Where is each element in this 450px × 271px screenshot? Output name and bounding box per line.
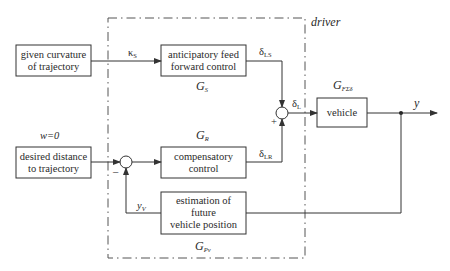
summer1-minus-sign: – (113, 166, 118, 178)
delta-ls-label: δLS (259, 46, 272, 61)
tf-gpv-label: GPv (195, 240, 211, 256)
tf-gvehicle-sub: FΣδ (342, 85, 353, 92)
w-label: w=0 (40, 130, 59, 142)
tf-gs-sub: S (205, 86, 208, 93)
kappa-sub: S (133, 52, 137, 59)
delta-ls-sub: LS (264, 51, 272, 58)
output-y-label: y (414, 97, 419, 109)
compensatory-text: compensatory control (161, 147, 246, 178)
driver-label: driver (311, 16, 340, 28)
delta-l-sub: L (297, 103, 301, 110)
anticipatory-line-1: anticipatory feed (168, 49, 239, 61)
summer2-plus-sign: + (271, 116, 277, 128)
tf-gvehicle-label: GFΣδ (333, 79, 353, 95)
vehicle-line-1: vehicle (327, 107, 357, 119)
desired-distance-line-1: desired distance (20, 151, 87, 163)
delta-ls-line (246, 61, 282, 107)
given-curvature-line-1: given curvature (21, 49, 87, 61)
tf-gpv-sub: Pv (204, 246, 211, 253)
yv-label: yV (137, 200, 146, 215)
given-curvature-line-2: of trajectory (28, 61, 80, 73)
summing-junction-1 (120, 156, 132, 168)
estimation-text: estimation of future vehicle position (161, 192, 246, 234)
estimation-line-3: vehicle position (170, 219, 237, 231)
delta-lr-label: δLR (259, 148, 272, 163)
delta-l-label: δL (292, 98, 301, 113)
tf-gr-main: G (196, 128, 205, 142)
feedback-y-line (246, 113, 401, 213)
tf-gvehicle-main: G (333, 78, 342, 92)
desired-distance-text: desired distance to trajectory (16, 147, 91, 178)
estimation-line-1: estimation of (176, 195, 231, 207)
vehicle-text: vehicle (317, 98, 367, 127)
yv-sub: V (142, 205, 146, 212)
anticipatory-text: anticipatory feed forward control (161, 45, 246, 76)
tf-gs-main: G (196, 79, 205, 93)
tf-gpv-main: G (195, 239, 204, 253)
desired-distance-line-2: to trajectory (28, 163, 79, 175)
tf-gr-sub: R (205, 135, 209, 142)
tf-gr-label: GR (196, 129, 209, 145)
summing-junction-2 (276, 107, 288, 119)
compensatory-line-1: compensatory (174, 151, 233, 163)
delta-lr-sub: LR (264, 153, 272, 160)
anticipatory-line-2: forward control (171, 61, 237, 73)
given-curvature-text: given curvature of trajectory (16, 45, 91, 76)
kappa-label: κS (128, 47, 137, 62)
estimation-line-2: future (191, 207, 216, 219)
tf-gs-label: GS (196, 80, 208, 96)
compensatory-line-2: control (189, 163, 219, 175)
